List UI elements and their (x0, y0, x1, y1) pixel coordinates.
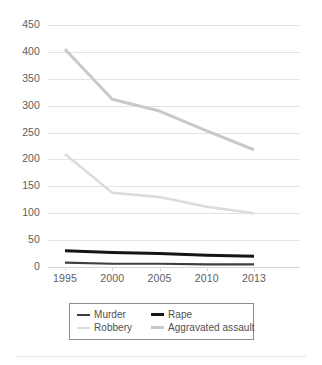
series-line-murder (65, 263, 254, 265)
y-axis-tick-label: 400 (8, 45, 44, 56)
plot-area: 450400350300250200150100500 199520002005… (0, 0, 322, 300)
x-axis-tick-label: 2000 (100, 272, 124, 284)
y-axis-tick-label: 350 (8, 72, 44, 83)
legend-entry-rape: Rape (151, 309, 241, 321)
legend-row: Robbery Aggravated assault (77, 321, 246, 334)
legend-row: Murder Rape (77, 308, 246, 321)
chart-legend: Murder Rape Robbery Aggravated assault (69, 303, 254, 340)
y-axis-tick-label: 100 (8, 207, 44, 218)
series-line-aggravated-assault (65, 49, 254, 150)
legend-swatch-icon (151, 326, 164, 329)
x-axis-tick-label: 2013 (242, 272, 266, 284)
x-axis-tick-label: 2010 (195, 272, 219, 284)
legend-entry-murder: Murder (77, 309, 151, 321)
y-axis-tick-label: 50 (8, 234, 44, 245)
x-axis-tick-label: 2005 (148, 272, 172, 284)
y-axis-tick-label: 0 (8, 261, 44, 272)
y-axis-tick-label: 250 (8, 126, 44, 137)
y-axis-tick-label: 450 (8, 19, 44, 30)
x-axis-tick-labels: 19952000200520102013 (48, 272, 300, 292)
legend-swatch-icon (151, 313, 164, 316)
legend-label: Robbery (94, 322, 132, 334)
series-line-rape (65, 251, 254, 256)
legend-label: Aggravated assault (168, 322, 255, 334)
legend-swatch-icon (77, 327, 90, 329)
legend-swatch-icon (77, 314, 90, 316)
series-layer (48, 0, 300, 300)
y-axis-tick-label: 150 (8, 180, 44, 191)
y-axis-tick-label: 300 (8, 99, 44, 110)
y-axis-tick-label: 200 (8, 153, 44, 164)
legend-entry-robbery: Robbery (77, 322, 151, 334)
legend-entry-aggravated-assault: Aggravated assault (151, 322, 241, 334)
legend-label: Murder (94, 309, 126, 321)
x-axis-tick-label: 1995 (53, 272, 77, 284)
series-line-robbery (65, 154, 254, 213)
legend-label: Rape (168, 309, 192, 321)
y-axis-tick-labels: 450400350300250200150100500 (8, 0, 44, 300)
bottom-divider (16, 356, 306, 357)
line-chart-figure: 450400350300250200150100500 199520002005… (0, 0, 322, 365)
